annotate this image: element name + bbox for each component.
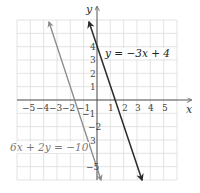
y-tick: 3 — [90, 56, 96, 65]
y-tick: 2 — [90, 70, 96, 79]
line2-equation-label: 6x + 2y = −10 — [9, 142, 89, 153]
x-axis-label: x — [186, 104, 192, 115]
y-axis-label: y — [86, 4, 92, 15]
line1-equation-label: y = −3x + 4 — [104, 48, 171, 59]
coordinate-plane — [0, 0, 200, 193]
x-tick: −2 — [62, 104, 75, 113]
x-tick: −3 — [49, 104, 62, 113]
x-tick: 4 — [148, 104, 154, 113]
y-tick: −1 — [82, 110, 95, 119]
y-tick: −5 — [86, 163, 99, 172]
x-tick: 5 — [162, 104, 168, 113]
x-tick: −4 — [36, 104, 49, 113]
x-tick: −5 — [22, 104, 35, 113]
x-tick: 1 — [108, 104, 114, 113]
y-tick: 3 — [90, 137, 96, 146]
y-tick: 1 — [90, 83, 96, 92]
y-tick: 4 — [90, 43, 96, 52]
x-tick: 3 — [135, 104, 141, 113]
y-tick: −2 — [88, 123, 101, 132]
x-tick: 2 — [122, 104, 128, 113]
